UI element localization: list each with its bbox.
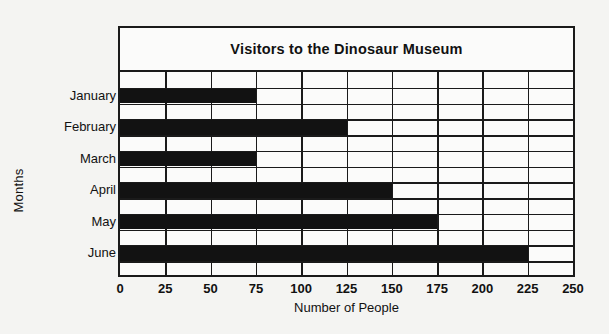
bar-march xyxy=(120,152,256,166)
bar-chart-figure: Months JanuaryFebruaryMarchAprilMayJune … xyxy=(0,0,609,334)
plot-area xyxy=(120,72,573,275)
x-axis-title-label: Number of People xyxy=(294,300,399,315)
x-axis-title: Number of People xyxy=(118,300,575,315)
vertical-gridline xyxy=(301,72,303,275)
y-tick-label-may: May xyxy=(20,214,116,230)
bar-february xyxy=(120,120,347,134)
y-axis-tick-labels: JanuaryFebruaryMarchAprilMayJune xyxy=(20,72,116,277)
y-tick-label-april: April xyxy=(20,182,116,198)
bar-june xyxy=(120,246,528,260)
plot-frame: Visitors to the Dinosaur Museum xyxy=(118,26,575,277)
x-tick-label-250: 250 xyxy=(543,281,603,296)
y-tick-label-june: June xyxy=(20,245,116,261)
vertical-gridline xyxy=(482,72,484,275)
y-tick-label-february: February xyxy=(20,119,116,135)
x-axis-tick-labels: 0255075100125150175200225250 xyxy=(118,281,575,299)
vertical-gridline xyxy=(347,72,349,275)
chart-title: Visitors to the Dinosaur Museum xyxy=(230,41,462,57)
vertical-gridline xyxy=(528,72,530,275)
y-tick-label-march: March xyxy=(20,151,116,167)
bar-january xyxy=(120,89,256,103)
y-tick-label-january: January xyxy=(20,88,116,104)
chart-title-banner: Visitors to the Dinosaur Museum xyxy=(120,28,573,72)
vertical-gridline xyxy=(392,72,394,275)
bar-april xyxy=(120,183,392,197)
vertical-gridline xyxy=(437,72,439,275)
bar-may xyxy=(120,215,437,229)
vertical-gridline xyxy=(256,72,258,275)
